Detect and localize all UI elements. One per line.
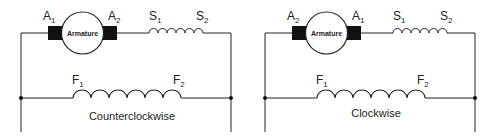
brush-right-label: A2 (108, 9, 121, 25)
diagram-clockwise: Armature A2 A1 S1 S2 F1 F2 Clockwise (263, 9, 477, 132)
brush-left-label: A2 (287, 9, 300, 25)
series-left-label: S1 (149, 9, 162, 25)
armature-label: Armature (311, 30, 342, 37)
armature-label: Armature (67, 30, 98, 37)
field-left-label: F1 (72, 73, 84, 89)
series-left-label: S1 (393, 9, 406, 25)
brush-right-label: A1 (352, 9, 365, 25)
diagram-counterclockwise: Armature A1 A2 S1 S2 F1 F2 Counterclockw… (19, 9, 233, 132)
brush-left-label: A1 (43, 9, 56, 25)
series-right-label: S2 (196, 9, 209, 25)
caption-clockwise: Clockwise (351, 107, 401, 119)
field-right-label: F2 (173, 73, 185, 89)
field-left-label: F1 (316, 73, 328, 89)
motor-reversal-diagram: Armature A1 A2 S1 S2 F1 F2 Counterclockw… (0, 0, 488, 137)
caption-counterclockwise: Counterclockwise (89, 110, 175, 122)
field-right-label: F2 (417, 73, 429, 89)
series-right-label: S2 (440, 9, 453, 25)
